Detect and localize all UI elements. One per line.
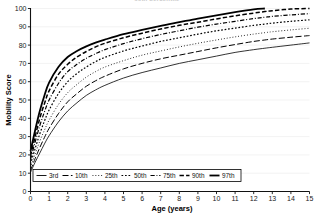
- curve-90th: [31, 9, 310, 156]
- curve-3rd: [31, 43, 310, 172]
- y-tick-label: 40: [19, 115, 27, 122]
- x-tick-label: 12: [250, 195, 258, 202]
- curve-75th: [31, 14, 310, 160]
- curve-10th: [31, 36, 310, 171]
- y-axis-title: Mobility Score: [4, 74, 13, 125]
- x-tick-label: 13: [268, 195, 276, 202]
- y-tick-label: 30: [19, 133, 27, 140]
- mobility-score-percentile-chart: 66th percentile 010203040506070809010001…: [0, 0, 314, 215]
- legend-label-25th: 25th: [105, 172, 118, 179]
- x-tick-label: 8: [177, 195, 181, 202]
- legend-label-75th: 75th: [163, 172, 176, 179]
- curve-50th: [31, 20, 310, 164]
- y-tick-label: 80: [19, 42, 27, 49]
- y-tick-label: 10: [19, 170, 27, 177]
- legend-label-50th: 50th: [134, 172, 147, 179]
- x-tick-label: 9: [196, 195, 200, 202]
- chart-plot-area: 0102030405060708090100012345678910111213…: [0, 0, 314, 215]
- x-tick-label: 3: [84, 195, 88, 202]
- y-tick-label: 70: [19, 60, 27, 67]
- y-tick-label: 90: [19, 23, 27, 30]
- axes-group: [28, 8, 310, 194]
- x-tick-label: 15: [306, 195, 314, 202]
- x-tick-label: 7: [159, 195, 163, 202]
- x-tick-label: 4: [103, 195, 107, 202]
- gridlines-group: [31, 9, 310, 174]
- y-tick-label: 20: [19, 151, 27, 158]
- x-tick-label: 14: [287, 195, 295, 202]
- legend-label-90th: 90th: [192, 172, 205, 179]
- x-tick-label: 11: [231, 195, 238, 202]
- y-tick-label: 60: [19, 78, 27, 85]
- y-tick-label: 0: [23, 188, 27, 195]
- x-axis-title: Age (years): [152, 204, 193, 213]
- curve-97th: [31, 9, 265, 152]
- x-tick-label: 5: [122, 195, 126, 202]
- x-tick-label: 10: [213, 195, 221, 202]
- x-tick-label: 0: [29, 195, 33, 202]
- y-tick-label: 50: [19, 97, 27, 104]
- legend-label-10th: 10th: [75, 172, 88, 179]
- legend[interactable]: 3rd10th25th50th75th90th97th: [33, 170, 241, 182]
- curves-group: [31, 9, 310, 173]
- y-tick-label: 100: [15, 5, 27, 12]
- x-tick-label: 2: [66, 195, 70, 202]
- legend-label-3rd: 3rd: [49, 172, 59, 179]
- x-tick-label: 1: [47, 195, 51, 202]
- x-tick-label: 6: [140, 195, 144, 202]
- legend-label-97th: 97th: [222, 172, 235, 179]
